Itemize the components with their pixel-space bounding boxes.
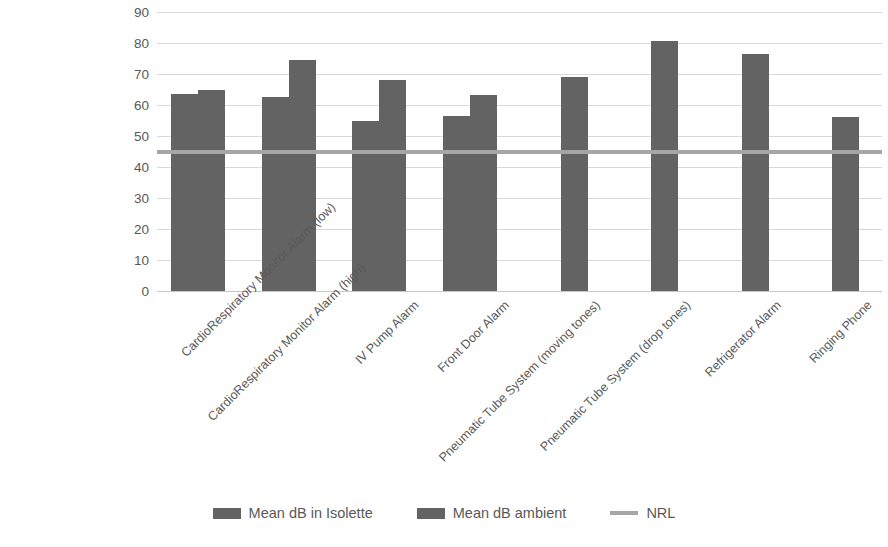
bar-ambient[interactable] (742, 54, 769, 291)
y-axis-tick-label: 10 (107, 253, 149, 268)
nrl-reference-line (157, 150, 882, 154)
legend-line-swatch-icon (610, 511, 638, 515)
bar-ambient[interactable] (289, 60, 316, 291)
legend-bar-swatch-icon (417, 508, 445, 519)
x-axis-tick-label: CardioRespiratory Monitor Alarm (low) (178, 298, 240, 360)
bar-ambient[interactable] (832, 117, 859, 291)
y-axis-tick-label: 30 (107, 191, 149, 206)
y-axis-tick-label: 80 (107, 36, 149, 51)
legend-label: NRL (646, 505, 675, 521)
bar-isolette[interactable] (171, 94, 198, 291)
x-axis-category-labels: CardioRespiratory Monitor Alarm (low)Car… (157, 292, 882, 492)
y-axis-tick-label: 60 (107, 98, 149, 113)
bar-ambient[interactable] (198, 90, 225, 291)
legend-item[interactable]: NRL (610, 505, 675, 521)
bar-ambient[interactable] (379, 80, 406, 291)
bar-isolette[interactable] (443, 116, 470, 291)
y-axis-tick-label: 20 (107, 222, 149, 237)
bar-ambient[interactable] (651, 41, 678, 291)
bar-ambient[interactable] (470, 95, 497, 291)
y-axis: 9080706050403020100 (105, 12, 149, 291)
bar-ambient[interactable] (561, 77, 588, 291)
legend-item[interactable]: Mean dB ambient (417, 505, 567, 521)
y-axis-tick-label: 0 (107, 284, 149, 299)
legend-item[interactable]: Mean dB in Isolette (213, 505, 373, 521)
legend-label: Mean dB ambient (453, 505, 567, 521)
chart-legend: Mean dB in IsoletteMean dB ambientNRL (0, 505, 888, 521)
legend-label: Mean dB in Isolette (249, 505, 373, 521)
y-axis-tick-label: 70 (107, 67, 149, 82)
y-axis-tick-label: 90 (107, 5, 149, 20)
plot-area (157, 12, 882, 291)
bar-chart: 9080706050403020100 CardioRespiratory Mo… (0, 0, 888, 547)
y-axis-tick-label: 40 (107, 160, 149, 175)
legend-bar-swatch-icon (213, 508, 241, 519)
x-axis-tick-label: IV Pump Alarm (232, 298, 422, 488)
y-axis-tick-label: 50 (107, 129, 149, 144)
